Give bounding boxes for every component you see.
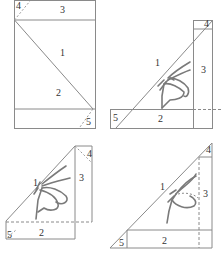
panel-d-label-2: 2	[162, 235, 167, 246]
panel-b-label-1: 1	[155, 57, 160, 68]
panel-b-label-5: 5	[113, 112, 118, 123]
panel-c-label-1: 1	[33, 177, 38, 188]
panel-b-label-3: 3	[201, 64, 206, 75]
panel-c-label-2: 2	[39, 227, 44, 238]
panel-a: 4 3 1 2 5	[15, 0, 96, 129]
panel-c-label-3: 3	[79, 172, 84, 183]
folding-diagram: 4 3 1 2 5 1 4 3 5 2	[0, 0, 221, 258]
butterfly-icon	[34, 166, 70, 219]
panel-b-hypotenuse	[116, 21, 213, 129]
panel-d-label-5: 5	[119, 237, 124, 248]
panel-c-label-4: 4	[87, 148, 92, 159]
panel-d-label-4: 4	[206, 144, 211, 155]
panel-a-label-4: 4	[16, 0, 21, 11]
panel-d-hypotenuse	[110, 143, 212, 248]
butterfly-icon	[167, 174, 198, 223]
panel-a-label-2: 2	[56, 87, 61, 98]
panel-b-strip-2	[111, 110, 194, 129]
panel-c-label-5: 5	[7, 229, 12, 240]
panel-a-diagonal	[15, 20, 94, 109]
panel-a-label-5: 5	[86, 116, 91, 127]
panel-b-label-2: 2	[158, 113, 163, 124]
panel-d-label-1: 1	[160, 181, 165, 192]
panel-c: 1 4 3 5 2	[6, 146, 92, 240]
panel-a-label-1: 1	[60, 47, 65, 58]
butterfly-icon	[158, 62, 190, 108]
panel-d-label-3: 3	[203, 188, 208, 199]
panel-d: 1 4 3 5 2	[110, 143, 212, 248]
panel-a-label-3: 3	[60, 4, 65, 15]
panel-b: 1 4 3 5 2	[111, 18, 222, 129]
panel-b-label-4: 4	[204, 18, 209, 29]
